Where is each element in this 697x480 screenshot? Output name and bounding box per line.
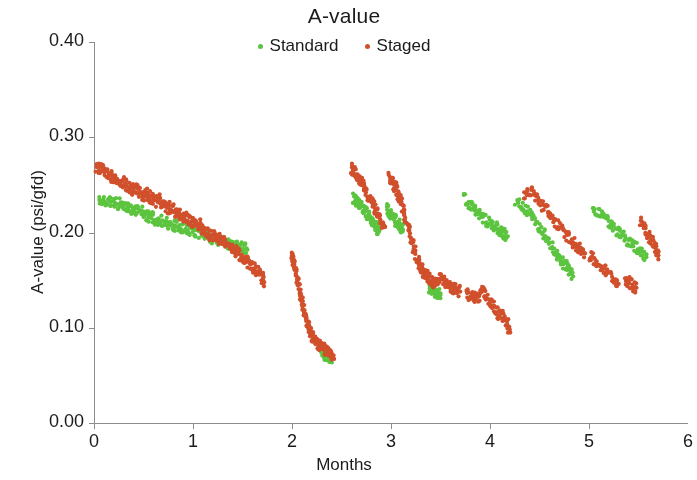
legend-label-standard: Standard bbox=[270, 36, 339, 56]
y-tick-label: 0.40 bbox=[28, 30, 84, 51]
legend-item-standard[interactable]: Standard bbox=[258, 36, 339, 56]
chart-legend: Standard Staged bbox=[0, 36, 688, 56]
legend-marker-standard-icon bbox=[258, 44, 263, 49]
y-tick-label: 0.30 bbox=[28, 125, 84, 146]
x-tick-label: 4 bbox=[475, 431, 505, 452]
x-tick-label: 1 bbox=[178, 431, 208, 452]
y-tick-label: 0.20 bbox=[28, 221, 84, 242]
legend-marker-staged-icon bbox=[365, 44, 370, 49]
x-tick-label: 5 bbox=[574, 431, 604, 452]
y-tick-label: 0.10 bbox=[28, 316, 84, 337]
x-tick-label: 2 bbox=[277, 431, 307, 452]
x-tick-label: 0 bbox=[79, 431, 109, 452]
legend-item-staged[interactable]: Staged bbox=[365, 36, 431, 56]
x-tick-label: 6 bbox=[673, 431, 697, 452]
chart-title: A-value bbox=[0, 4, 688, 28]
x-tick-label: 3 bbox=[376, 431, 406, 452]
legend-label-staged: Staged bbox=[377, 36, 431, 56]
x-axis-title: Months bbox=[0, 455, 688, 475]
y-tick-label: 0.00 bbox=[28, 411, 84, 432]
